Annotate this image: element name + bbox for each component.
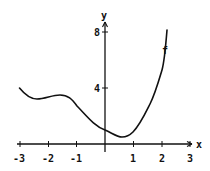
y-tick-label: 8	[94, 27, 100, 38]
x-tick-label: 2	[159, 153, 165, 164]
x-tick-label: 1	[130, 153, 136, 164]
x-tick-label: -1	[70, 153, 82, 164]
x-axis-label: x	[196, 139, 202, 150]
y-axis-label: y	[101, 10, 107, 21]
function-graph: x y -3 -2 -1 1 2 3 4 8 f	[0, 0, 210, 171]
y-tick-label: 4	[94, 83, 100, 94]
x-tick-label: -3	[13, 153, 25, 164]
curve-label: f	[162, 45, 168, 56]
x-tick-label: 3	[187, 153, 193, 164]
x-tick-label: -2	[42, 153, 54, 164]
